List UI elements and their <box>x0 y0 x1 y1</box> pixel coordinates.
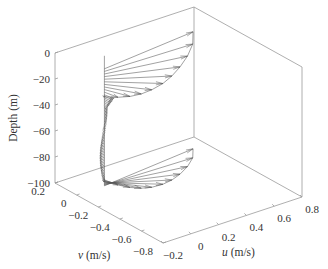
u-tick <box>189 232 191 234</box>
depth-tick <box>55 104 58 105</box>
box-edge-top-right <box>194 7 302 67</box>
u-tick-label: −0.2 <box>163 249 183 261</box>
v-tick <box>98 206 101 207</box>
velocity-vectors <box>100 32 193 189</box>
depth-tick <box>55 156 58 157</box>
u-tick-label: 0 <box>198 240 204 252</box>
v-tick-label: −0.4 <box>90 221 110 233</box>
v-axis-label-unit: (m/s) <box>83 249 110 262</box>
v-tick-label: −0.8 <box>133 245 153 257</box>
velocity-vector <box>104 167 187 185</box>
velocity-vector <box>104 90 130 97</box>
depth-tick-label: −40 <box>33 99 51 111</box>
depth-tick-label: −80 <box>33 151 51 163</box>
depth-tick <box>55 52 58 53</box>
box-edge-top-left <box>55 7 194 53</box>
depth-tick-label: 0 <box>45 47 51 59</box>
depth-tick-label: −60 <box>33 125 51 137</box>
v-tick <box>141 230 144 231</box>
depth-axis-ticks: 0−20−40−60−80−100 <box>27 47 58 189</box>
v-tick <box>120 218 123 219</box>
depth-tick <box>55 130 58 131</box>
chart-3d-vector-profile: 0−20−40−60−80−100 0.20−0.2−0.4−0.6−0.8 −… <box>0 0 328 269</box>
velocity-vector <box>104 84 151 89</box>
axes-box <box>55 7 302 243</box>
u-tick-label: 0.6 <box>277 212 291 224</box>
velocity-vector <box>104 76 171 79</box>
v-tick-label: 0 <box>61 197 67 209</box>
v-tick <box>163 242 166 243</box>
v-tick-label: 0.2 <box>31 185 45 197</box>
depth-tick <box>55 78 58 79</box>
v-tick-label: −0.2 <box>68 209 88 221</box>
u-tick-label: 0.2 <box>222 231 236 243</box>
velocity-vector <box>104 149 193 186</box>
u-tick-label: 0.8 <box>305 203 319 215</box>
u-axis-label-unit: (m/s) <box>228 246 255 259</box>
box-edge-bottom-back-right <box>194 137 302 197</box>
depth-axis-label: Depth (m) <box>7 94 20 142</box>
v-axis-label: v (m/s) <box>78 249 110 262</box>
v-tick <box>55 182 58 183</box>
u-tick <box>272 204 274 206</box>
v-tick-label: −0.6 <box>111 233 131 245</box>
arrowhead <box>186 149 193 153</box>
v-axis-ticks: 0.20−0.2−0.4−0.6−0.8 <box>31 182 166 257</box>
box-edge-bottom-back-left <box>55 137 194 183</box>
u-tick-label: 0.4 <box>250 221 264 233</box>
u-tick <box>217 223 219 225</box>
v-tick <box>77 194 80 195</box>
u-axis-label: u (m/s) <box>222 246 255 259</box>
depth-tick-label: −20 <box>33 73 51 85</box>
velocity-vector <box>104 32 193 69</box>
velocity-vector <box>104 82 163 84</box>
u-tick <box>244 213 246 215</box>
arrowhead <box>186 32 193 36</box>
